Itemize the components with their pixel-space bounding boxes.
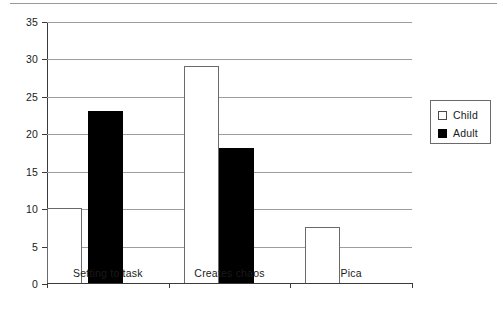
bar-adult-1: [219, 148, 254, 283]
x-category-label: Creates chaos: [194, 268, 264, 279]
legend-label-child: Child: [453, 110, 478, 121]
gridline: [47, 22, 412, 23]
legend-item-child: Child: [438, 107, 490, 123]
y-tick-mark: [42, 59, 47, 60]
y-tick-label: 30: [26, 54, 38, 65]
x-tick-mark: [169, 283, 170, 288]
y-tick-mark: [42, 172, 47, 173]
legend-item-adult: Adult: [438, 125, 490, 141]
bar-child-1: [184, 66, 219, 283]
y-tick-label: 0: [32, 279, 38, 290]
x-category-label: Pica: [341, 268, 362, 279]
chart-legend: Child Adult: [430, 100, 491, 144]
y-tick-label: 25: [26, 92, 38, 103]
legend-label-adult: Adult: [453, 128, 478, 139]
x-category-label: Setting to task: [73, 268, 143, 279]
gridline: [47, 59, 412, 60]
y-tick-label: 35: [26, 17, 38, 28]
bar-child-2: [305, 227, 340, 283]
y-tick-label: 20: [26, 129, 38, 140]
x-tick-mark: [47, 283, 48, 288]
y-tick-label: 10: [26, 204, 38, 215]
y-tick-mark: [42, 22, 47, 23]
bar-adult-0: [88, 111, 123, 283]
x-tick-mark: [412, 283, 413, 288]
page-top-rule: [10, 3, 497, 4]
gridline: [47, 97, 412, 98]
x-axis-line: [47, 283, 412, 284]
bar-chart-figure: 05101520253035 Setting to taskCreates ch…: [0, 0, 503, 312]
legend-swatch-child-icon: [438, 111, 447, 120]
x-tick-mark: [290, 283, 291, 288]
y-tick-mark: [42, 134, 47, 135]
legend-swatch-adult-icon: [438, 129, 447, 138]
y-tick-mark: [42, 97, 47, 98]
y-tick-label: 15: [26, 166, 38, 177]
y-tick-label: 5: [32, 241, 38, 252]
plot-area: 05101520253035: [47, 22, 412, 284]
